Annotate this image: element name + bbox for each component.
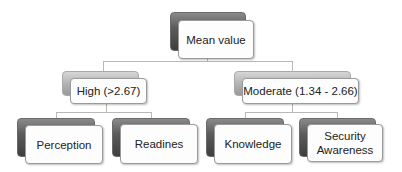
category-moderate-box: Moderate (1.34 - 2.66) [242,78,359,104]
connector-moderate-up [292,61,293,71]
leaf-security-awareness-label: Security Awareness [314,129,376,157]
leaf-security-awareness-box: Security Awareness [307,124,383,162]
leaf-knowledge-box: Knowledge [214,124,292,164]
leaf-knowledge-label: Knowledge [225,137,282,151]
connector-moderate-horizontal [245,112,338,113]
leaf-readines-box: Readines [120,124,198,164]
root-node-label: Mean value [186,33,245,47]
connector-level1-horizontal [103,61,293,62]
connector-high-up [103,61,104,71]
category-moderate-label: Moderate (1.34 - 2.66) [243,84,357,98]
connector-high-horizontal [56,112,152,113]
leaf-readines-label: Readines [135,137,184,151]
leaf-perception-box: Perception [25,125,103,164]
category-high-box: High (>2.67) [70,78,147,104]
root-node-box: Mean value [178,20,254,59]
leaf-perception-label: Perception [37,138,92,152]
category-high-label: High (>2.67) [77,84,141,98]
